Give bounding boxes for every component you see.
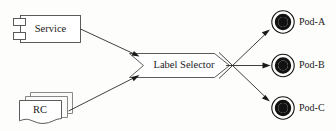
label-selector-diagram: Service RC Label Selector	[0, 0, 336, 131]
node-rc[interactable]: RC	[20, 93, 73, 124]
selector-to-pod-a-line	[219, 32, 268, 79]
selector-to-pod-c-arrowhead	[262, 95, 270, 102]
selector-to-pod-b-arrowhead	[263, 63, 271, 69]
pod-c-label: Pod-C	[299, 102, 325, 113]
connection-selector-to-pod-c	[219, 53, 270, 102]
selector-to-pod-c-line	[219, 53, 268, 100]
service-label: Service	[35, 23, 67, 34]
pod-icon[interactable]	[272, 97, 294, 119]
diagram-canvas: Service RC Label Selector	[0, 0, 336, 131]
pod-icon[interactable]	[272, 11, 294, 33]
pod-a-label: Pod-A	[299, 16, 326, 27]
pod-b-label: Pod-B	[299, 59, 325, 70]
node-pod-c[interactable]: Pod-C	[272, 97, 325, 119]
connection-selector-to-pod-a	[219, 30, 270, 79]
rc-to-selector-line	[69, 76, 138, 111]
label-selector-label: Label Selector	[154, 59, 215, 70]
pod-icon[interactable]	[272, 54, 294, 76]
node-pod-a[interactable]: Pod-A	[272, 11, 326, 33]
selector-to-pod-a-arrowhead	[262, 30, 270, 37]
rc-label: RC	[33, 104, 47, 115]
service-to-selector-line	[81, 29, 138, 56]
node-service[interactable]: Service	[14, 16, 81, 43]
node-label-selector[interactable]: Label Selector	[130, 54, 230, 78]
node-pod-b[interactable]: Pod-B	[272, 54, 325, 76]
connection-service-to-selector	[81, 29, 140, 57]
connection-rc-to-selector	[69, 75, 140, 111]
